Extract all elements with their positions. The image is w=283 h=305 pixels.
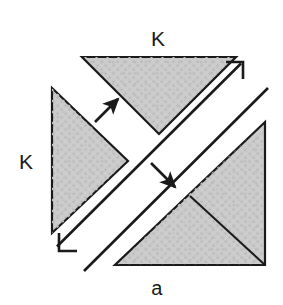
label-k-left: K — [19, 151, 33, 172]
label-k-top: K — [151, 28, 165, 49]
figure-container: K K a — [0, 0, 283, 305]
figure-caption: a — [151, 278, 162, 298]
arrow-up-right-icon — [95, 99, 118, 122]
knot-band-diagram — [0, 0, 283, 305]
